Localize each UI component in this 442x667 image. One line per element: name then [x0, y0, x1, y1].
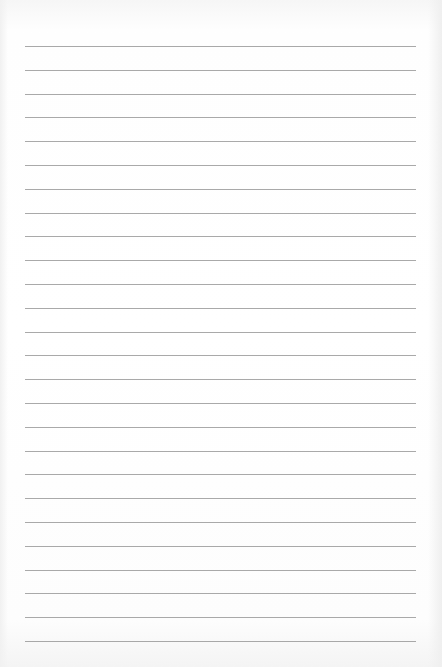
ruled-line — [25, 94, 416, 95]
ruled-line — [25, 236, 416, 237]
paper-left-edge-shadow — [0, 0, 8, 667]
ruled-line — [25, 451, 416, 452]
ruled-line — [25, 474, 416, 475]
ruled-line — [25, 355, 416, 356]
paper-right-edge-shadow — [428, 0, 442, 667]
ruled-line — [25, 165, 416, 166]
ruled-line — [25, 593, 416, 594]
ruled-line — [25, 379, 416, 380]
lined-paper-sheet — [0, 0, 442, 667]
ruled-line — [25, 427, 416, 428]
ruled-line — [25, 70, 416, 71]
ruled-line — [25, 284, 416, 285]
ruled-line — [25, 141, 416, 142]
ruled-line — [25, 546, 416, 547]
ruled-line — [25, 117, 416, 118]
ruled-line — [25, 403, 416, 404]
ruled-line — [25, 213, 416, 214]
ruled-line — [25, 522, 416, 523]
ruled-line — [25, 189, 416, 190]
ruled-line — [25, 260, 416, 261]
ruled-line — [25, 308, 416, 309]
ruled-line — [25, 46, 416, 47]
ruled-line — [25, 617, 416, 618]
ruled-line — [25, 641, 416, 642]
ruled-line — [25, 332, 416, 333]
ruled-line — [25, 498, 416, 499]
ruled-line — [25, 570, 416, 571]
